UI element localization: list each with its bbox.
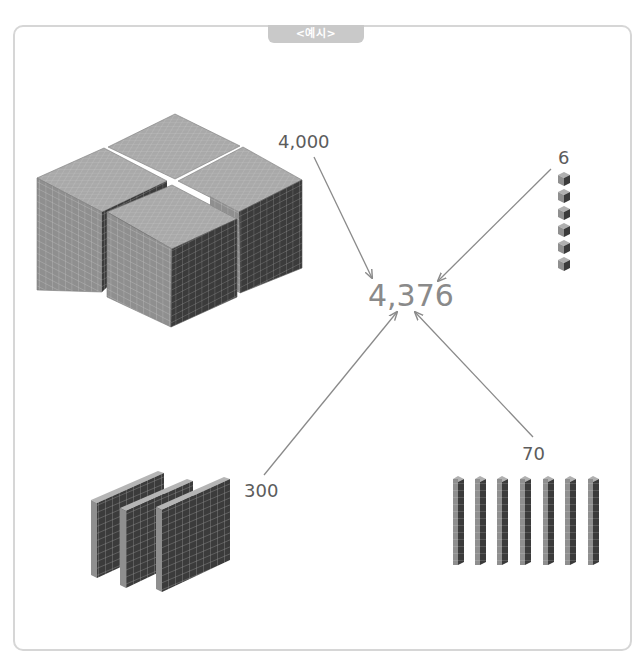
arrow-hundreds-to-total: [264, 312, 397, 475]
ten-rods-group: [453, 476, 599, 565]
ten-rod-icon: [565, 476, 576, 565]
base-ten-blocks-illustration: [0, 0, 644, 666]
unit-cube-icon: [558, 240, 570, 254]
hundreds-label: 300: [244, 481, 278, 501]
hundred-flats-group: [91, 471, 230, 592]
ten-rod-icon: [497, 476, 508, 565]
unit-cube-icon: [558, 206, 570, 220]
thousand-cubes-group: [37, 114, 302, 327]
ten-rod-icon: [543, 476, 554, 565]
unit-cube-icon: [558, 189, 570, 203]
ones-label: 6: [558, 148, 569, 168]
total-number: 4,376: [368, 279, 454, 313]
arrow-ones-to-total: [438, 169, 551, 281]
unit-cube-icon: [558, 257, 570, 271]
ten-rod-icon: [453, 476, 464, 565]
unit-cubes-group: [558, 172, 570, 271]
ten-rod-icon: [588, 476, 599, 565]
arrow-tens-to-total: [415, 312, 533, 437]
arrow-thousands-to-total: [314, 157, 372, 278]
ten-rod-icon: [520, 476, 531, 565]
unit-cube-icon: [558, 223, 570, 237]
unit-cube-icon: [558, 172, 570, 186]
ten-rod-icon: [475, 476, 486, 565]
thousands-label: 4,000: [278, 132, 330, 152]
arrows-group: [264, 157, 551, 475]
tens-label: 70: [522, 444, 545, 464]
